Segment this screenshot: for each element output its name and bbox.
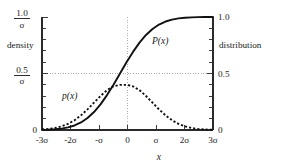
x-tick-label--2sigma: -2σ: [64, 135, 77, 145]
x-axis-title: x: [156, 151, 162, 162]
left-tick-label-0: 0: [32, 125, 37, 135]
right-tick-label-0: 0: [218, 125, 223, 135]
x-tick-label-3sigma: 3σ: [208, 135, 218, 145]
left-axis-ticks: [42, 17, 48, 130]
left-tick-0.5-numerator: 0.5: [16, 65, 28, 75]
plot-svg: density distribution 1.0 σ 0.5 σ 0 1.0 0…: [0, 0, 281, 164]
left-tick-label-1.0-over-sigma: 1.0 σ: [14, 8, 30, 30]
x-tick-label-sigma: σ: [154, 135, 159, 145]
x-tick-label-2sigma: 2σ: [180, 135, 190, 145]
right-axis-ticks: [207, 17, 213, 130]
left-tick-1.0-numerator: 1.0: [16, 8, 28, 18]
right-tick-label-0.5: 0.5: [218, 69, 230, 79]
right-axis-label: distribution: [219, 40, 262, 50]
axes-group: [42, 17, 213, 130]
curve-label-density: p(x): [61, 90, 77, 102]
gridlines-group: [42, 17, 213, 130]
left-axis-label: density: [7, 40, 34, 50]
left-tick-0.5-denominator: σ: [20, 76, 25, 86]
left-tick-label-0.5-over-sigma: 0.5 σ: [14, 65, 30, 87]
cumulative-curve-P-of-x: [42, 17, 213, 130]
left-tick-1.0-denominator: σ: [20, 20, 25, 30]
x-tick-label--3sigma: -3σ: [36, 135, 49, 145]
x-tick-label-0: 0: [125, 135, 130, 145]
figure-container: density distribution 1.0 σ 0.5 σ 0 1.0 0…: [0, 0, 281, 164]
x-tick-label--sigma: -σ: [95, 135, 103, 145]
right-tick-label-1.0: 1.0: [218, 12, 230, 22]
curve-label-cumulative: P(x): [151, 35, 169, 47]
